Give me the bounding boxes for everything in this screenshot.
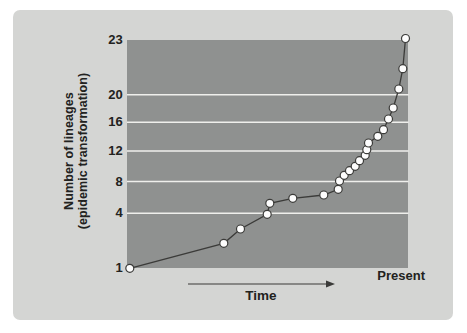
data-point-21 [394,85,402,93]
y-tick-8: 8 [13,175,123,189]
data-point-4 [263,210,271,218]
y-tick-23: 23 [13,33,123,47]
data-point-16 [364,139,372,147]
x-axis-title: Time [186,288,336,303]
data-point-18 [379,126,387,134]
data-point-1 [125,264,133,272]
y-tick-12: 12 [13,144,123,158]
x-axis-present-label: Present [353,268,425,283]
y-axis-tick-labels: 23201612841 [13,40,123,268]
data-point-7 [319,191,327,199]
data-point-2 [219,239,227,247]
data-point-23 [401,35,409,43]
data-point-6 [288,194,296,202]
plot-area [127,40,409,268]
data-point-8 [334,185,342,193]
y-tick-4: 4 [13,206,123,220]
y-tick-20: 20 [13,88,123,102]
data-point-3 [236,225,244,233]
data-point-17 [373,132,381,140]
lineage-chart [127,40,409,268]
data-point-5 [265,199,273,207]
y-tick-1: 1 [13,261,123,275]
data-point-19 [384,115,392,123]
y-tick-16: 16 [13,115,123,129]
data-point-22 [398,65,406,73]
figure-page: Number of lineages (epidemic transformat… [0,0,467,333]
data-point-20 [389,104,397,112]
figure-panel: Number of lineages (epidemic transformat… [13,10,453,320]
